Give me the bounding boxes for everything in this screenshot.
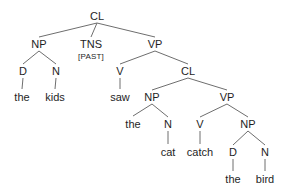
node-n-embedded: N bbox=[164, 119, 172, 130]
tree-edge bbox=[39, 23, 97, 37]
tree-edge bbox=[227, 104, 248, 117]
node-tns-feature: [PAST] bbox=[78, 53, 104, 61]
leaf-kids: kids bbox=[45, 92, 65, 103]
leaf-cat: cat bbox=[161, 147, 176, 158]
node-tns: TNS bbox=[80, 39, 102, 50]
node-v-embedded: V bbox=[196, 119, 203, 130]
tree-edge bbox=[233, 131, 248, 145]
node-cl-root: CL bbox=[90, 11, 104, 22]
leaf-the-3: the bbox=[225, 174, 240, 185]
tree-edge bbox=[133, 104, 152, 116]
node-np-subject: NP bbox=[31, 39, 46, 50]
tree-edge bbox=[97, 23, 155, 37]
tree-edge bbox=[55, 78, 56, 89]
leaf-catch: catch bbox=[187, 147, 213, 158]
node-n-object: N bbox=[261, 147, 269, 158]
tree-edge bbox=[248, 131, 265, 145]
tree-edge bbox=[120, 51, 155, 64]
tree-edge bbox=[91, 23, 97, 37]
tree-edge bbox=[152, 104, 168, 117]
tree-edge bbox=[188, 78, 227, 90]
leaf-saw: saw bbox=[110, 92, 130, 103]
tree-edge bbox=[22, 78, 23, 89]
tree-edge bbox=[39, 51, 56, 64]
leaf-bird: bird bbox=[256, 174, 274, 185]
tree-edge bbox=[152, 78, 188, 90]
node-vp-embedded: VP bbox=[220, 92, 235, 103]
node-d-object: D bbox=[229, 147, 237, 158]
tree-edge bbox=[155, 51, 188, 64]
node-cl-embedded: CL bbox=[181, 66, 195, 77]
node-v-main: V bbox=[116, 66, 123, 77]
leaf-the-2: the bbox=[125, 119, 140, 130]
node-d-subject: D bbox=[19, 66, 27, 77]
node-np-embedded: NP bbox=[144, 92, 159, 103]
tree-edge bbox=[200, 104, 227, 117]
node-vp-main: VP bbox=[148, 39, 163, 50]
leaf-the-1: the bbox=[14, 92, 29, 103]
node-n-subject: N bbox=[52, 66, 60, 77]
tree-edge bbox=[23, 51, 39, 64]
node-np-object: NP bbox=[240, 119, 255, 130]
